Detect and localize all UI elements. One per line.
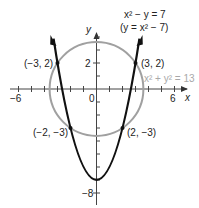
y-axis-label: y bbox=[85, 24, 92, 35]
parabola-arrow-right-icon bbox=[137, 35, 143, 46]
parabola-arrow-left-icon bbox=[50, 35, 56, 46]
point-label-neg2-neg3: (−2, −3) bbox=[33, 127, 68, 138]
point-label-3-2: (3, 2) bbox=[141, 58, 164, 69]
x-axis bbox=[10, 86, 187, 92]
parabola-equation-line2: (y = x² − 7) bbox=[120, 22, 168, 33]
point-label-neg3-2: (−3, 2) bbox=[24, 58, 53, 69]
y-tick-label-2: 2 bbox=[85, 58, 91, 69]
x-tick-label-6: 6 bbox=[170, 93, 176, 104]
point-3-2 bbox=[134, 61, 138, 65]
x-tick-label-neg6: −6 bbox=[10, 93, 22, 104]
point-2-neg3 bbox=[121, 126, 125, 130]
parabola-equation-line1: x² − y = 7 bbox=[124, 9, 166, 20]
point-neg2-neg3 bbox=[69, 126, 73, 130]
circle-equation: x² + y² = 13 bbox=[144, 73, 195, 84]
y-tick-label-neg8: −8 bbox=[82, 188, 94, 199]
point-label-2-neg3: (2, −3) bbox=[127, 127, 156, 138]
origin-label: 0 bbox=[89, 93, 95, 104]
x-axis-label: x bbox=[184, 92, 191, 103]
point-neg3-2 bbox=[56, 61, 60, 65]
chart: x² − y = 7 (y = x² − 7) x² + y² = 13 y x… bbox=[0, 0, 199, 208]
